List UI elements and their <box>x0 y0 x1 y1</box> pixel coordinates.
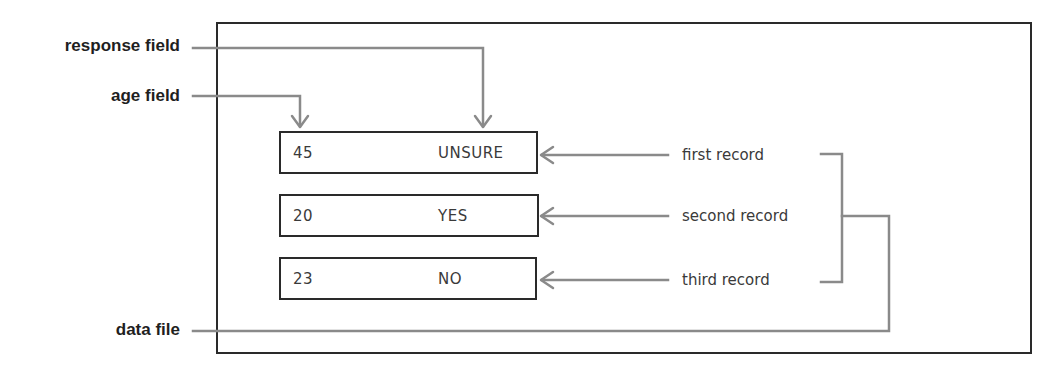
data-file-outline <box>217 23 1031 353</box>
age-field-label: age field <box>111 86 180 106</box>
age-value: 20 <box>293 207 313 225</box>
first-record-arrow <box>541 147 668 163</box>
response-field-label: response field <box>65 36 180 56</box>
second-record-arrow <box>541 208 668 224</box>
records-bracket <box>821 154 842 282</box>
third-record-arrow <box>541 272 668 288</box>
age-value: 23 <box>293 270 313 288</box>
record-box-third: 23 NO <box>279 257 537 300</box>
data-file-diagram: response field age field data file 45 UN… <box>0 0 1055 376</box>
record-box-first: 45 UNSURE <box>279 131 538 174</box>
data-file-label: data file <box>116 320 180 340</box>
first-record-label: first record <box>682 146 764 164</box>
response-field-connector <box>193 48 491 127</box>
age-field-connector <box>193 96 308 127</box>
response-value: YES <box>438 207 468 225</box>
response-value: UNSURE <box>438 144 504 162</box>
third-record-label: third record <box>682 271 770 289</box>
second-record-label: second record <box>682 207 788 225</box>
response-value: NO <box>438 270 462 288</box>
record-box-second: 20 YES <box>279 194 539 237</box>
age-value: 45 <box>293 144 313 162</box>
